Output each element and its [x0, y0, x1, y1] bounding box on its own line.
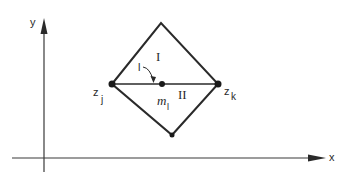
node-label-left-main: z [93, 86, 99, 98]
x-axis-label: x [329, 151, 335, 163]
node-label-mid-main: m [157, 93, 166, 108]
region-label-upper: I [156, 49, 160, 64]
node-bottom [170, 133, 175, 138]
node-label-right: z k [224, 85, 237, 102]
node-label-mid: m l [157, 93, 169, 112]
axes: y x [12, 16, 335, 172]
finite-element-diagram: y x I II l z j z k m l [0, 0, 348, 177]
y-axis-label: y [30, 16, 36, 28]
edge-pointer-arrowhead-icon [151, 76, 157, 83]
node-label-right-main: z [224, 85, 230, 97]
x-axis-arrow-icon [308, 155, 326, 162]
node-right [215, 81, 222, 88]
edge-label: l [138, 61, 140, 73]
element-quad [112, 23, 218, 135]
y-axis-arrow-icon [41, 18, 48, 34]
node-mid [159, 81, 165, 87]
node-label-right-sub: k [231, 91, 237, 102]
node-left [109, 81, 116, 88]
node-label-left: z j [93, 86, 103, 105]
node-label-mid-sub: l [167, 102, 169, 112]
node-label-left-sub: j [100, 94, 103, 105]
region-label-lower: II [178, 87, 187, 102]
element-outline [112, 23, 218, 135]
